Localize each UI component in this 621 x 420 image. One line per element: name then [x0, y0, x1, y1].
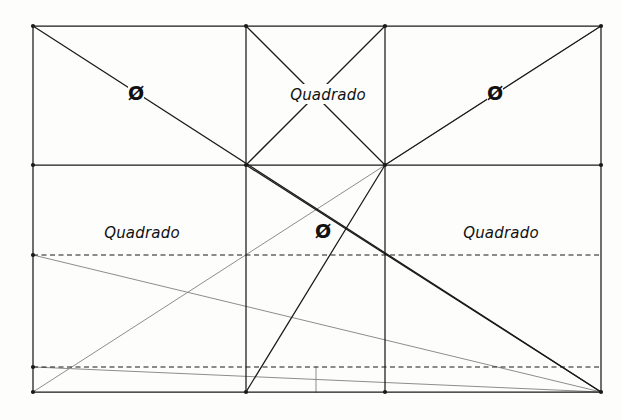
annotation-word-mid-right: Quadrado [463, 224, 539, 242]
vertex-dash2-left [31, 365, 35, 369]
vertex-center-left [244, 163, 248, 167]
diagram-canvas: ØQuadradoØQuadradoØQuadrado [0, 0, 621, 420]
vertex-bottom-left [31, 390, 35, 394]
annotation-sym-top-right: Ø [487, 82, 503, 104]
annotation-sym-center: Ø [315, 220, 331, 242]
annotation-word-mid-left: Quadrado [104, 224, 180, 242]
paper-background [0, 0, 621, 420]
vertex-mid-right [599, 163, 603, 167]
vertex-top-right [599, 24, 603, 28]
vertex-bottom-mid-right [383, 390, 387, 394]
annotation-word-top-center: Quadrado [290, 86, 366, 104]
geometric-diagram: ØQuadradoØQuadradoØQuadrado [0, 0, 621, 420]
vertex-mid-left [31, 163, 35, 167]
vertex-center-right [383, 163, 387, 167]
vertex-top-left [31, 24, 35, 28]
annotation-sym-top-left: Ø [128, 82, 144, 104]
vertex-dash1-left [31, 253, 35, 257]
vertex-bottom-right [599, 390, 603, 394]
vertex-bottom-mid-left [244, 390, 248, 394]
vertex-top-mid-right [383, 24, 387, 28]
vertex-top-mid-left [244, 24, 248, 28]
